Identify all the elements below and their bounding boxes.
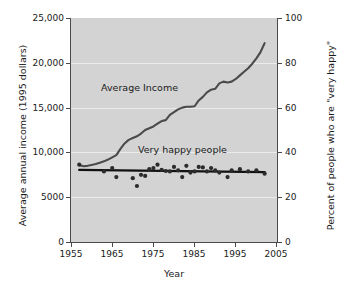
scatter-point — [193, 169, 197, 173]
y-tick-0 — [66, 242, 70, 243]
x-tick-1995 — [235, 243, 236, 247]
y2-label-60: 60 — [285, 103, 296, 113]
y-label-20000: 20,000 — [33, 58, 65, 68]
scatter-point — [213, 168, 217, 172]
y2-label-100: 100 — [285, 13, 302, 23]
y-tick-25000 — [66, 18, 70, 19]
y-tick-5000 — [66, 197, 70, 198]
y-tick-10000 — [66, 152, 70, 153]
scatter-point — [225, 175, 229, 179]
x-tick-1975 — [153, 243, 154, 247]
y-axis-right-line — [277, 18, 278, 243]
scatter-point — [197, 165, 201, 169]
scatter-point — [230, 168, 234, 172]
scatter-point — [147, 167, 151, 171]
x-label-2005: 2005 — [256, 249, 296, 259]
x-label-1975: 1975 — [133, 249, 173, 259]
scatter-point — [110, 166, 114, 170]
x-tick-1965 — [112, 243, 113, 247]
annotation-average-income: Average Income — [101, 82, 178, 93]
y2-label-20: 20 — [285, 192, 296, 202]
scatter-point — [160, 168, 164, 172]
y-axis-left-line — [70, 18, 71, 243]
y-label-10000: 10,000 — [33, 147, 65, 157]
scatter-point — [209, 166, 213, 170]
scatter-point — [77, 163, 81, 167]
scatter-point — [254, 168, 258, 172]
x-tick-1955 — [71, 243, 72, 247]
y-label-5000: 5000 — [41, 192, 64, 202]
scatter-point — [102, 169, 106, 173]
y-axis-right-title: Percent of people who are "very happy" — [325, 21, 336, 251]
y2-tick-80 — [278, 63, 282, 64]
scatter-point — [143, 174, 147, 178]
y2-tick-100 — [278, 18, 282, 19]
scatter-point — [180, 175, 184, 179]
y2-label-40: 40 — [285, 147, 296, 157]
y2-tick-40 — [278, 152, 282, 153]
y2-label-80: 80 — [285, 58, 296, 68]
y2-label-0: 0 — [285, 237, 291, 247]
x-axis-line — [70, 242, 278, 243]
x-axis-title: Year — [70, 268, 278, 279]
y-axis-left-title: Average annual income (1995 dollars) — [17, 26, 28, 246]
y-tick-15000 — [66, 108, 70, 109]
scatter-point — [135, 184, 139, 188]
annotation-very-happy-people: Very happy people — [138, 144, 227, 155]
plot-data-layer — [71, 18, 277, 242]
scatter-point — [131, 176, 135, 180]
x-label-1995: 1995 — [215, 249, 255, 259]
scatter-point — [188, 170, 192, 174]
plot-area: Average Income Very happy people — [71, 18, 277, 242]
scatter-point — [263, 172, 267, 176]
scatter-point — [168, 169, 172, 173]
scatter-point — [201, 165, 205, 169]
x-label-1965: 1965 — [92, 249, 132, 259]
x-label-1985: 1985 — [174, 249, 214, 259]
scatter-point — [164, 169, 168, 173]
scatter-point — [205, 169, 209, 173]
scatter-point — [217, 170, 221, 174]
scatter-point — [238, 167, 242, 171]
y2-tick-20 — [278, 197, 282, 198]
x-tick-1985 — [194, 243, 195, 247]
scatter-point — [172, 165, 176, 169]
y-label-15000: 15,000 — [33, 103, 65, 113]
y2-tick-0 — [278, 242, 282, 243]
scatter-point — [114, 175, 118, 179]
x-label-1955: 1955 — [51, 249, 91, 259]
scatter-point — [139, 173, 143, 177]
y2-tick-60 — [278, 108, 282, 109]
y-tick-20000 — [66, 63, 70, 64]
scatter-point — [151, 166, 155, 170]
scatter-point — [176, 168, 180, 172]
scatter-point — [184, 164, 188, 168]
y-label-25000: 25,000 — [33, 13, 65, 23]
chart-figure: Average Income Very happy people 25,000 … — [0, 0, 340, 286]
very-happy-scatter-points — [77, 163, 267, 188]
scatter-point — [246, 169, 250, 173]
x-tick-2005 — [276, 243, 277, 247]
scatter-point — [155, 163, 159, 167]
y-label-0: 0 — [58, 237, 64, 247]
